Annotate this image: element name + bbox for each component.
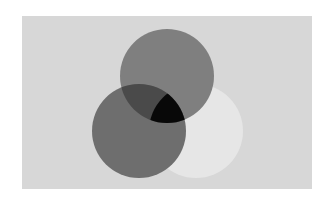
venn-diagram bbox=[0, 0, 332, 202]
venn-diagram-stage bbox=[0, 0, 332, 202]
